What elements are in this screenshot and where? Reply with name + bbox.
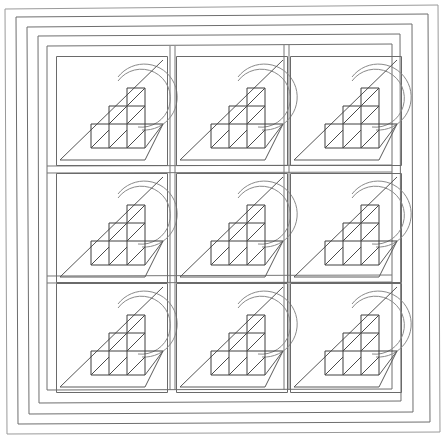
pane-r3c3 <box>291 284 412 393</box>
window-grille-drawing <box>0 0 445 438</box>
pane-r3c2 <box>177 284 298 393</box>
drawing-canvas <box>0 0 445 438</box>
pane-r1c2 <box>177 57 298 166</box>
frame-ring-glazing-bead <box>47 44 392 390</box>
mullion-horizontal-2 <box>47 172 392 173</box>
pane-r2c1 <box>57 174 178 283</box>
pane-r2c3 <box>291 174 412 283</box>
pane-r3c1 <box>57 284 178 393</box>
mullion-horizontal-3 <box>47 275 392 276</box>
pane-grid <box>57 57 412 393</box>
pane-r1c3 <box>291 57 412 166</box>
pane-r2c2 <box>177 174 298 283</box>
pane-r1c1 <box>57 57 178 166</box>
frame-ring-sash-outer <box>27 24 413 414</box>
mullion-bars <box>47 45 392 390</box>
